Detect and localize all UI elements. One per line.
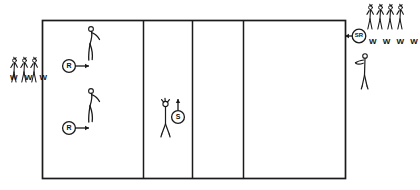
waiting-figure bbox=[387, 4, 394, 29]
marker-setter-label: S bbox=[172, 113, 184, 120]
court-outline bbox=[43, 21, 346, 179]
player-setter bbox=[161, 98, 170, 137]
court-boundary bbox=[43, 21, 346, 179]
marker-server-right-label: SR bbox=[352, 32, 366, 38]
waiting-figure bbox=[367, 4, 374, 29]
arrow-head-right bbox=[85, 64, 89, 69]
waiting-group-right bbox=[367, 4, 404, 29]
marker-receiver-bottom-label: R bbox=[63, 124, 75, 131]
marker-receiver-top-label: R bbox=[63, 62, 75, 69]
waiting-figure bbox=[397, 4, 404, 29]
player-receiver-top bbox=[89, 27, 100, 60]
arrow-head-right bbox=[85, 126, 89, 131]
waiting-figure bbox=[377, 4, 384, 29]
waiting-group-right-label: W W W W bbox=[369, 37, 420, 46]
waiting-group-left-label: W W W bbox=[10, 73, 50, 82]
player-receiver-bottom bbox=[89, 89, 100, 122]
arrow-head-up bbox=[176, 99, 180, 103]
player-server bbox=[356, 54, 369, 89]
